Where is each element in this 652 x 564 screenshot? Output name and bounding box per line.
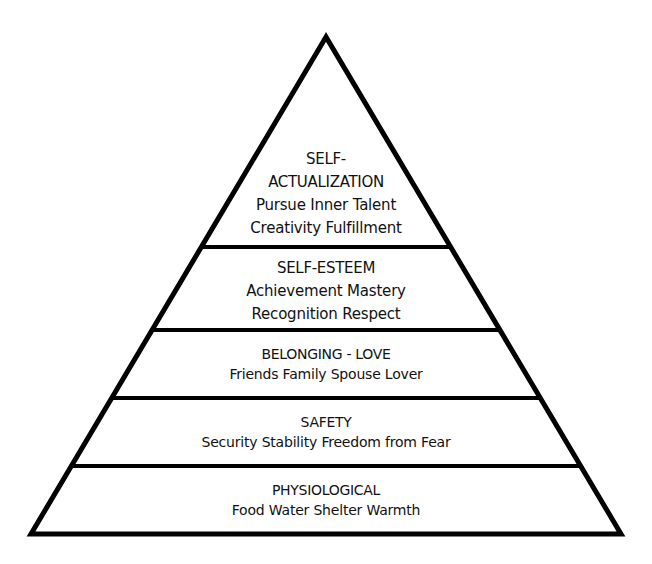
tier-items: Creativity Fulfillment <box>0 217 652 240</box>
tier-title: ACTUALIZATION <box>0 171 652 194</box>
tier-title: PHYSIOLOGICAL <box>0 480 652 500</box>
tier-items: Achievement Mastery <box>0 280 652 303</box>
tier-belonging-love: BELONGING - LOVE Friends Family Spouse L… <box>0 344 652 384</box>
tier-items: Friends Family Spouse Lover <box>0 364 652 384</box>
tier-title: SELF-ESTEEM <box>0 257 652 280</box>
tier-items: Food Water Shelter Warmth <box>0 500 652 520</box>
tier-title: BELONGING - LOVE <box>0 344 652 364</box>
maslow-pyramid-diagram: SELF- ACTUALIZATION Pursue Inner Talent … <box>0 0 652 564</box>
tier-physiological: PHYSIOLOGICAL Food Water Shelter Warmth <box>0 480 652 520</box>
tier-safety: SAFETY Security Stability Freedom from F… <box>0 412 652 452</box>
tier-items: Recognition Respect <box>0 303 652 326</box>
tier-self-actualization: SELF- ACTUALIZATION Pursue Inner Talent … <box>0 148 652 240</box>
tier-self-esteem: SELF-ESTEEM Achievement Mastery Recognit… <box>0 257 652 326</box>
tier-items: Pursue Inner Talent <box>0 194 652 217</box>
tier-title: SELF- <box>0 148 652 171</box>
tier-items: Security Stability Freedom from Fear <box>0 432 652 452</box>
tier-title: SAFETY <box>0 412 652 432</box>
